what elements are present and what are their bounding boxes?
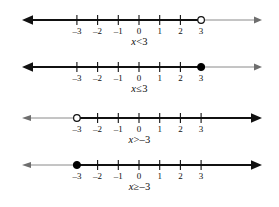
tick-label-1-5: 2 bbox=[178, 26, 183, 36]
tick-label-4-4: 1 bbox=[157, 171, 162, 181]
number-line-2: –3 –2 –1 0 1 2 3 bbox=[0, 51, 279, 85]
caption-3: x>–3 bbox=[0, 134, 279, 145]
caption-2: x≤3 bbox=[0, 83, 279, 94]
caption-1: x<3 bbox=[0, 36, 279, 47]
tick-label-3-2: –1 bbox=[113, 124, 123, 134]
tick-label-2-5: 2 bbox=[178, 73, 183, 83]
number-line-1-graph: –3 –2 –1 0 1 2 3 bbox=[0, 4, 279, 38]
caption-1-value: 3 bbox=[142, 36, 147, 47]
tick-label-4-5: 2 bbox=[178, 171, 183, 181]
arrow-head-left-icon-2 bbox=[22, 62, 33, 71]
number-line-4: –3 –2 –1 0 1 2 3 bbox=[0, 149, 279, 183]
arrow-head-left-icon-3 bbox=[22, 115, 31, 121]
number-line-3-graph: –3 –2 –1 0 1 2 3 bbox=[0, 102, 279, 136]
tick-label-3-5: 2 bbox=[178, 124, 183, 134]
number-line-3: –3 –2 –1 0 1 2 3 bbox=[0, 102, 279, 136]
tick-label-1-6: 3 bbox=[199, 26, 204, 36]
open-endpoint-circle-3 bbox=[74, 115, 81, 122]
tick-label-3-1: –2 bbox=[92, 124, 102, 134]
number-line-4-graph: –3 –2 –1 0 1 2 3 bbox=[0, 149, 279, 183]
caption-3-value: –3 bbox=[140, 134, 151, 145]
tick-label-2-1: –2 bbox=[92, 73, 102, 83]
tick-label-1-0: –3 bbox=[71, 26, 82, 36]
number-line-figure: –3 –2 –1 0 1 2 3 x<3 –3 bbox=[0, 0, 279, 207]
closed-endpoint-circle-4 bbox=[73, 161, 80, 168]
tick-label-3-0: –3 bbox=[71, 124, 82, 134]
open-endpoint-circle-1 bbox=[198, 17, 205, 24]
arrow-head-left-icon-4 bbox=[22, 162, 31, 168]
arrow-head-right-icon-1 bbox=[254, 17, 262, 24]
tick-label-1-2: –1 bbox=[113, 26, 123, 36]
closed-endpoint-circle-2 bbox=[198, 63, 205, 70]
tick-label-2-2: –1 bbox=[113, 73, 123, 83]
tick-label-4-0: –3 bbox=[71, 171, 82, 181]
tick-label-1-4: 1 bbox=[157, 26, 162, 36]
tick-label-2-3: 0 bbox=[137, 73, 142, 83]
tick-label-2-6: 3 bbox=[199, 73, 204, 83]
caption-2-value: 3 bbox=[142, 83, 147, 94]
number-line-2-graph: –3 –2 –1 0 1 2 3 bbox=[0, 51, 279, 85]
arrow-head-right-icon-4 bbox=[251, 160, 262, 169]
tick-label-3-6: 3 bbox=[199, 124, 204, 134]
number-line-1: –3 –2 –1 0 1 2 3 bbox=[0, 4, 279, 38]
tick-label-2-0: –3 bbox=[71, 73, 82, 83]
arrow-head-left-icon-1 bbox=[22, 15, 33, 24]
tick-label-1-3: 0 bbox=[137, 26, 142, 36]
tick-label-4-1: –2 bbox=[92, 171, 102, 181]
caption-4: x≥–3 bbox=[0, 181, 279, 192]
tick-label-3-4: 1 bbox=[157, 124, 162, 134]
tick-label-3-3: 0 bbox=[137, 124, 142, 134]
arrow-head-right-icon-2 bbox=[254, 64, 262, 71]
caption-4-value: –3 bbox=[139, 181, 150, 192]
arrow-head-right-icon-3 bbox=[251, 113, 262, 122]
tick-label-4-3: 0 bbox=[137, 171, 142, 181]
tick-label-4-2: –1 bbox=[113, 171, 123, 181]
tick-label-2-4: 1 bbox=[157, 73, 162, 83]
tick-label-4-6: 3 bbox=[199, 171, 204, 181]
tick-label-1-1: –2 bbox=[92, 26, 102, 36]
